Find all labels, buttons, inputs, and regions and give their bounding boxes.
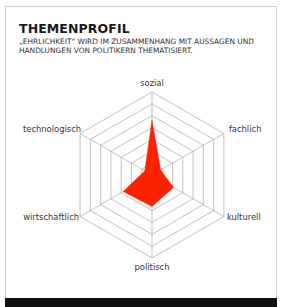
radar-area [123, 120, 173, 206]
axis-label-politisch: politisch [135, 262, 170, 272]
axis-label-fachlich: fachlich [229, 124, 262, 134]
axis-label-wirtschaftlich: wirtschaftlich [23, 212, 79, 222]
grid-spoke [152, 134, 224, 176]
axis-label-sozial: sozial [140, 78, 164, 88]
grid-spoke [80, 134, 152, 176]
axis-label-technologisch: technologisch [23, 124, 81, 134]
footer-bar [5, 298, 277, 307]
axis-label-kulturell: kulturell [227, 212, 261, 222]
radar-chart: sozialfachlichkulturellpolitischwirtscha… [0, 0, 285, 307]
